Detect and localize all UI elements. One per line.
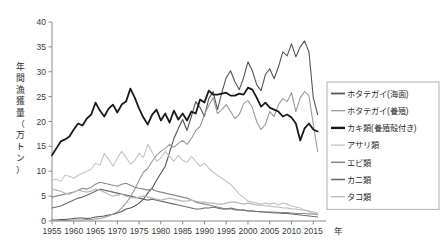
legend-label: ホタテガイ(海面) (347, 89, 409, 99)
y-tick-label: 15 (37, 141, 47, 151)
y-tick-label: 35 (37, 42, 47, 52)
y-tick-label: 40 (37, 17, 47, 27)
y-axis-label-char: 年 (16, 61, 25, 72)
x-axis: 1955196019651970197519801985199019952000… (43, 221, 343, 236)
x-tick-label: 1970 (108, 226, 127, 236)
y-axis-label-char: 万 (16, 130, 25, 140)
y-tick-label: 20 (37, 117, 47, 127)
legend-label: エビ類 (347, 158, 372, 168)
x-axis-unit-label: 年 (334, 226, 343, 236)
y-axis-label: 年間漁獲量（万トン） (16, 61, 25, 175)
x-tick-label: 1995 (217, 226, 236, 236)
y-axis: 0510152025303540 (37, 17, 52, 226)
x-tick-label: 1965 (86, 226, 105, 236)
y-tick-label: 5 (41, 191, 46, 201)
legend-label: タコ類 (347, 192, 372, 202)
legend-label: ホタテガイ(養殖) (347, 106, 409, 116)
series-line (52, 88, 318, 156)
x-tick-label: 1990 (195, 226, 214, 236)
y-axis-label-char: ト (16, 142, 25, 152)
legend-label: カニ類 (347, 175, 372, 185)
x-tick-label: 2005 (260, 226, 279, 236)
series-line (52, 144, 318, 215)
legend-label: アサリ類 (347, 140, 380, 150)
y-axis-label-char: ） (16, 165, 25, 175)
x-tick-label: 1975 (130, 226, 149, 236)
x-tick-label: 1960 (64, 226, 83, 236)
y-axis-label-char: 量 (16, 108, 25, 118)
y-tick-label: 25 (37, 92, 47, 102)
y-tick-label: 30 (37, 67, 47, 77)
series-line (52, 182, 318, 214)
y-axis-label-char: 間 (16, 73, 25, 83)
x-tick-label: 2000 (239, 226, 258, 236)
x-tick-label: 1955 (43, 226, 62, 236)
line-chart: 年間漁獲量（万トン） 0510152025303540 195519601965… (0, 0, 440, 247)
x-tick-label: 2015 (304, 226, 323, 236)
y-axis-label-char: ン (16, 153, 25, 163)
chart-legend: ホタテガイ(海面)ホタテガイ(養殖)カキ類(養殖殻付き)アサリ類エビ類カニ類タコ… (327, 82, 439, 209)
y-tick-label: 0 (41, 216, 46, 226)
y-axis-label-char: 獲 (16, 95, 25, 106)
x-tick-label: 1985 (173, 226, 192, 236)
chart-canvas: 年間漁獲量（万トン） 0510152025303540 195519601965… (0, 0, 440, 247)
series-lines (52, 41, 318, 221)
y-axis-label-char: （ (16, 119, 25, 129)
x-tick-label: 2010 (282, 226, 301, 236)
series-line (52, 189, 318, 217)
y-tick-label: 10 (37, 166, 47, 176)
y-axis-label-char: 漁 (16, 84, 25, 95)
x-tick-label: 1980 (151, 226, 170, 236)
legend-label: カキ類(養殖殻付き) (347, 123, 417, 133)
